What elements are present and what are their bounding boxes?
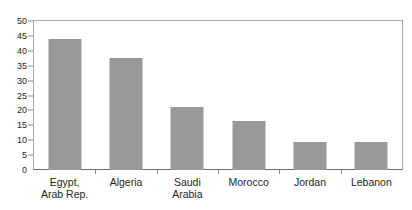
x-axis-category-label: Jordan	[279, 176, 340, 188]
x-axis-category-label: Lebanon	[341, 176, 402, 188]
x-axis-tick-mark	[279, 170, 280, 174]
x-axis-category-label-line: Arabia	[157, 188, 218, 200]
x-axis-category-label: Algeria	[95, 176, 156, 188]
y-axis-tick-label: 5	[22, 151, 27, 160]
x-axis-tick-mark	[157, 170, 158, 174]
y-axis-tick-label: 25	[17, 91, 27, 100]
bar-slot	[341, 21, 402, 170]
x-axis-category-label-line: Saudi	[157, 176, 218, 188]
x-axis-category-label-line: Jordan	[279, 176, 340, 188]
x-axis-category-label-line: Morocco	[218, 176, 279, 188]
x-axis-category-label-line: Lebanon	[341, 176, 402, 188]
x-axis-category-label: Morocco	[218, 176, 279, 188]
x-axis-category-label-line: Arab Rep.	[34, 188, 95, 200]
y-axis-tick-label: 50	[17, 17, 27, 26]
bar[interactable]	[48, 39, 81, 170]
y-axis-tick-label: 20	[17, 106, 27, 115]
x-axis-category-label: SaudiArabia	[157, 176, 218, 200]
bar-slot	[95, 21, 156, 170]
x-axis-tick-mark	[341, 170, 342, 174]
bar-slot	[34, 21, 95, 170]
bar[interactable]	[171, 107, 204, 170]
bar-chart-figure: 05101520253035404550 Egypt,Arab Rep.Alge…	[0, 0, 412, 210]
y-axis-tick-label: 10	[17, 136, 27, 145]
x-axis-category-label-line: Egypt,	[34, 176, 95, 188]
y-axis-tick-label: 35	[17, 61, 27, 70]
bars-layer	[34, 21, 402, 170]
x-axis-ticks	[34, 170, 402, 175]
bar[interactable]	[232, 121, 265, 170]
bar[interactable]	[293, 142, 326, 170]
bar[interactable]	[109, 58, 142, 170]
bar-slot	[157, 21, 218, 170]
bar-slot	[218, 21, 279, 170]
x-axis-category-label-line: Algeria	[95, 176, 156, 188]
y-axis-tick-label: 15	[17, 121, 27, 130]
bar[interactable]	[355, 142, 388, 170]
y-axis-tick-label: 45	[17, 31, 27, 40]
x-axis-category-label: Egypt,Arab Rep.	[34, 176, 95, 200]
y-axis-tick-label: 0	[22, 166, 27, 175]
x-axis-tick-mark	[95, 170, 96, 174]
x-axis-tick-mark	[218, 170, 219, 174]
x-axis-labels: Egypt,Arab Rep.AlgeriaSaudiArabiaMorocco…	[34, 176, 402, 208]
y-axis-tick-label: 30	[17, 76, 27, 85]
y-axis-tick-label: 40	[17, 46, 27, 55]
y-axis: 05101520253035404550	[0, 20, 33, 170]
bar-slot	[279, 21, 340, 170]
